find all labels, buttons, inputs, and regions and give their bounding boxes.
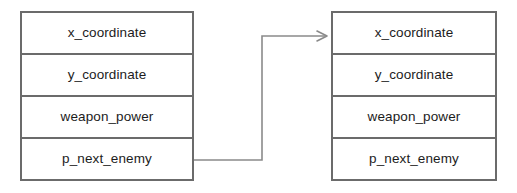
field-label: weapon_power: [368, 110, 461, 124]
field-row: x_coordinate: [333, 13, 495, 55]
field-label: x_coordinate: [375, 26, 454, 40]
field-row: p_next_enemy: [333, 139, 495, 179]
field-label: y_coordinate: [375, 68, 454, 82]
field-row: weapon_power: [22, 97, 192, 139]
field-row: x_coordinate: [22, 13, 192, 55]
field-label: x_coordinate: [68, 26, 147, 40]
field-label: y_coordinate: [68, 68, 147, 82]
field-label: p_next_enemy: [62, 152, 152, 166]
enemy-record-right: x_coordinate y_coordinate weapon_power p…: [331, 11, 497, 181]
enemy-record-left: x_coordinate y_coordinate weapon_power p…: [20, 11, 194, 181]
field-label: p_next_enemy: [369, 152, 459, 166]
field-row: y_coordinate: [22, 55, 192, 97]
field-row: p_next_enemy: [22, 139, 192, 179]
diagram-canvas: x_coordinate y_coordinate weapon_power p…: [0, 0, 517, 193]
field-label: weapon_power: [61, 110, 154, 124]
pointer-arrow-path: [194, 36, 326, 160]
field-row: weapon_power: [333, 97, 495, 139]
arrowhead-icon: [317, 31, 327, 41]
field-row: y_coordinate: [333, 55, 495, 97]
